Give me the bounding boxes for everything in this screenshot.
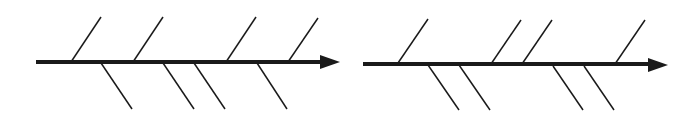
arrowhead-icon bbox=[648, 58, 668, 72]
lower-bone-line bbox=[194, 63, 225, 109]
upper-bone-line bbox=[615, 20, 645, 64]
lower-bone-line bbox=[584, 66, 614, 110]
upper-bone-line bbox=[491, 20, 521, 64]
upper-bone-line bbox=[288, 18, 318, 62]
lower-bone-line bbox=[257, 63, 287, 109]
upper-bone-line bbox=[398, 19, 428, 63]
upper-bone-line bbox=[522, 20, 552, 64]
lower-bone-line bbox=[101, 63, 132, 109]
lower-bone-line bbox=[553, 66, 583, 110]
lower-bone-line bbox=[459, 65, 490, 110]
upper-bone-line bbox=[133, 17, 163, 62]
fishbone-diagram-right bbox=[363, 19, 668, 110]
upper-bone-line bbox=[226, 17, 256, 62]
upper-bone-line bbox=[71, 17, 101, 62]
lower-bone-line bbox=[428, 65, 459, 110]
fishbone-diagrams-canvas bbox=[0, 0, 700, 117]
arrowhead-icon bbox=[320, 55, 340, 69]
fishbone-diagram-left bbox=[36, 17, 340, 109]
lower-bone-line bbox=[163, 63, 194, 109]
